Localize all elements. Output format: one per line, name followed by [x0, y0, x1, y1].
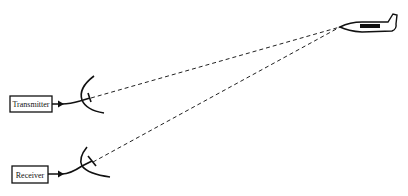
receiver-box: Receiver — [12, 166, 48, 183]
receiver-label: Receiver — [16, 171, 45, 180]
transmitter-label: Transmitter — [12, 100, 49, 109]
transmitter-feed-arrow — [52, 101, 80, 108]
radar-diagram: Transmitter Receiver — [0, 0, 408, 196]
receiver-antenna-icon — [81, 147, 110, 177]
echo-path — [93, 27, 340, 162]
receiver-feed-arrow — [48, 166, 82, 178]
aircraft-icon — [340, 14, 397, 32]
transmit-path — [91, 27, 340, 98]
transmitter-box: Transmitter — [10, 96, 52, 112]
transmitter-antenna-icon — [80, 76, 104, 113]
